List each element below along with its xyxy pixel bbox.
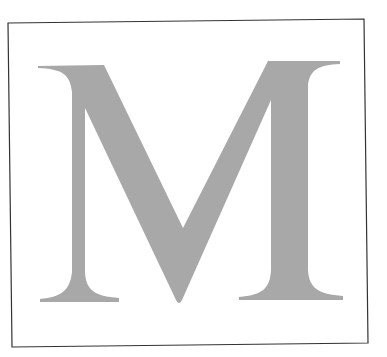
letter-m-graphic bbox=[0, 0, 387, 357]
letter-m-shape bbox=[38, 61, 343, 303]
letter-figure: M bbox=[0, 0, 387, 357]
